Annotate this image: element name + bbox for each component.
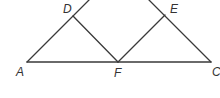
label-d: D — [63, 2, 72, 16]
segment-c-to-top — [149, 0, 211, 62]
segment-a-to-top — [27, 0, 89, 62]
label-f: F — [114, 66, 122, 80]
label-c: C — [212, 65, 220, 79]
label-e: E — [170, 2, 179, 16]
segment-ef — [118, 15, 165, 62]
label-a: A — [15, 65, 24, 79]
segment-df — [73, 16, 118, 62]
triangle-diagram: D E A F C — [0, 0, 220, 98]
